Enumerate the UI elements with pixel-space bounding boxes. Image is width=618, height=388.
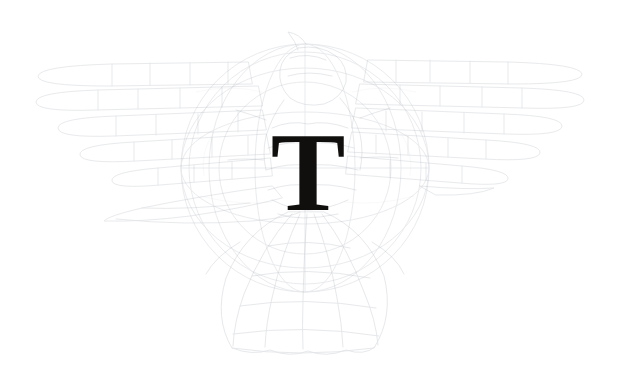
emblem-artwork xyxy=(0,0,618,388)
left-wing-group xyxy=(36,62,300,223)
right-wing-group xyxy=(346,60,584,195)
center-ring-group xyxy=(181,44,429,292)
scanned-page: T xyxy=(0,0,618,388)
watermark-emblem xyxy=(0,0,618,388)
